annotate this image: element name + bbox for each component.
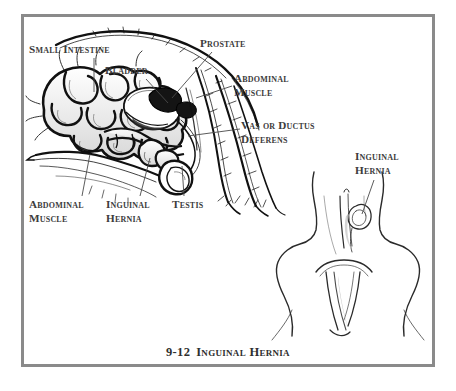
- label-testis: Testis: [172, 198, 203, 212]
- label-inguinal-hernia-left-line2: Hernia: [106, 212, 150, 226]
- label-vas-deferens-line2: Deferens: [241, 133, 315, 147]
- label-inguinal-hernia-right-line2: Hernia: [355, 164, 399, 178]
- figure-border: [21, 14, 435, 367]
- figure-container: Small Intestine Bladder Prostate Abdomin…: [0, 0, 456, 391]
- label-small-intestine: Small Intestine: [29, 43, 110, 57]
- label-vas-deferens: Vas or Ductus Deferens: [241, 119, 315, 146]
- label-inguinal-hernia-left-line1: Inguinal: [106, 198, 150, 212]
- label-abdominal-muscle-bottom-line1: Abdominal: [29, 198, 84, 212]
- label-prostate: Prostate: [200, 37, 245, 51]
- label-inguinal-hernia-right-line1: Inguinal: [355, 150, 399, 164]
- label-abdominal-muscle-top-line1: Abdominal: [234, 72, 289, 86]
- label-abdominal-muscle-top-line2: Muscle: [234, 86, 289, 100]
- label-inguinal-hernia-left: Inguinal Hernia: [106, 198, 150, 225]
- figure-caption: 9-12Inguinal Hernia: [0, 345, 456, 360]
- label-abdominal-muscle-top: Abdominal Muscle: [234, 72, 289, 99]
- figure-number: 9-12: [166, 345, 190, 359]
- label-abdominal-muscle-bottom: Abdominal Muscle: [29, 198, 84, 225]
- label-vas-deferens-line1: Vas or Ductus: [241, 119, 315, 133]
- label-bladder: Bladder: [105, 64, 148, 78]
- figure-title: Inguinal Hernia: [196, 345, 290, 359]
- label-abdominal-muscle-bottom-line2: Muscle: [29, 212, 84, 226]
- label-inguinal-hernia-right: Inguinal Hernia: [355, 150, 399, 177]
